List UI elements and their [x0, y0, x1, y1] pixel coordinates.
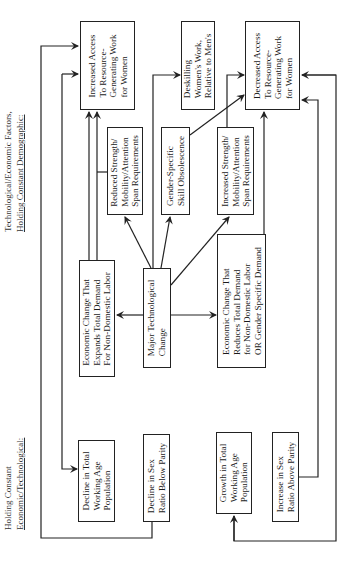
box-econ-expands-label: Economic Change That Expands Total Deman… [81, 272, 113, 365]
box-decreased-access-label: Decreased Access To Resource- Generating… [251, 32, 293, 98]
box-increased-strength: Increased Strength/ Mobility/Attention S… [217, 127, 254, 215]
box-decline-total-label: Decline in Total Working Age Population [81, 452, 113, 511]
header-right-line1: Technological/Economic Factors, [2, 32, 14, 232]
header-holding-constant-econ-tech: Holding Constant Economic/Technological: [2, 380, 26, 530]
box-decline-total: Decline in Total Working Age Population [78, 440, 115, 522]
box-growth-total: Growth in Total Working Age Population [216, 432, 252, 514]
header-holding-constant-demographic: Technological/Economic Factors, Holding … [2, 32, 26, 232]
box-increased-access: Increased Access To Resource- Generating… [80, 21, 135, 110]
box-decreased-access: Decreased Access To Resource- Generating… [245, 21, 300, 110]
box-deskilling: Deskilling Women's Work, Relative to Men… [181, 21, 215, 110]
box-econ-reduces: Economic Change That Reduces Total Deman… [217, 234, 266, 368]
box-growth-total-label: Growth in Total Working Age Population [218, 444, 250, 502]
box-deskilling-label: Deskilling Women's Work, Relative to Men… [182, 33, 214, 97]
box-decline-sex-label: Decline in Sex Ratio Below Parity [146, 443, 167, 513]
header-right-line2: Holding Constant Demographic: [14, 32, 26, 232]
box-econ-reduces-label: Economic Change That Reduces Total Deman… [220, 247, 262, 355]
box-gender-specific: Gender-Specific Skill Obsolescence [161, 127, 190, 215]
box-econ-expands: Economic Change That Expands Total Deman… [79, 260, 115, 377]
header-left-line1: Holding Constant [2, 380, 14, 530]
box-major-tech: Major Technological Change [143, 268, 171, 368]
header-left-line2: Economic/Technological: [14, 380, 26, 530]
box-increased-access-label: Increased Access To Resource- Generating… [86, 34, 128, 97]
box-increased-strength-label: Increased Strength/ Mobility/Attention S… [220, 135, 252, 207]
box-decline-sex: Decline in Sex Ratio Below Parity [143, 434, 170, 522]
box-gender-specific-label: Gender-Specific Skill Obsolescence [165, 136, 186, 206]
box-major-tech-label: Major Technological Change [146, 280, 167, 357]
box-reduced-strength-label: Reduced Strength/ Mobility/Attention Spa… [109, 135, 141, 207]
box-reduced-strength: Reduced Strength/ Mobility/Attention Spa… [107, 127, 143, 215]
box-increase-sex: Increase in Sex Ratio Above Parity [272, 432, 299, 522]
box-increase-sex-label: Increase in Sex Ratio Above Parity [275, 442, 296, 512]
